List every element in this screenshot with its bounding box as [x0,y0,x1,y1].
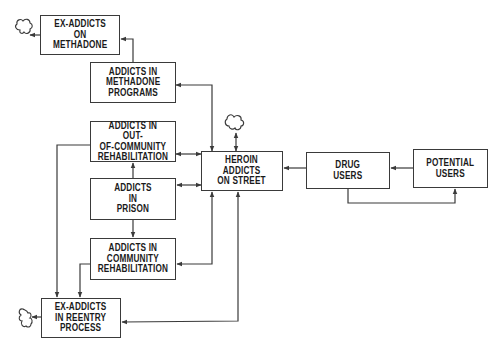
node-label: EX-ADDICTS ON METHADONE [53,19,107,51]
arrow-outrehab-to-reentry [57,145,90,297]
arrow-commrehab-heroin [177,192,212,264]
node-label: ADDICTS IN OUT- OF-COMMUNITY REHABILITAT… [98,121,168,163]
node-heroin-addicts-on-street: HEROIN ADDICTS ON STREET [201,151,283,191]
node-label: DRUG USERS [333,160,362,181]
node-addicts-in-methadone-programs: ADDICTS IN METHADONE PROGRAMS [90,62,176,103]
arrow-commrehab-to-reentry [80,264,90,297]
node-addicts-in-community-rehabilitation: ADDICTS IN COMMUNITY REHABILITATION [90,238,176,280]
node-label: ADDICTS IN PRISON [114,183,152,215]
node-addicts-in-prison: ADDICTS IN PRISON [90,178,176,220]
node-label: HEROIN ADDICTS ON STREET [218,155,266,187]
arrow-methadone-heroin [176,85,212,151]
node-potential-users: POTENTIAL USERS [413,149,488,188]
node-drug-users: DRUG USERS [306,152,390,189]
node-ex-addicts-in-reentry-process: EX-ADDICTS IN REENTRY PROCESS [41,298,121,338]
arrow-drug-to-potential [348,189,455,203]
cloud-icon [19,309,32,327]
node-label: EX-ADDICTS IN REENTRY PROCESS [55,302,107,334]
node-ex-addicts-on-methadone: EX-ADDICTS ON METHADONE [40,15,120,55]
node-label: POTENTIAL USERS [427,158,475,179]
node-label: ADDICTS IN METHADONE PROGRAMS [106,67,160,99]
arrow-methadone-to-ex [121,39,133,62]
cloud-icon [225,115,243,130]
cloud-icon [16,19,33,33]
node-addicts-in-out-of-community-rehabilitation: ADDICTS IN OUT- OF-COMMUNITY REHABILITAT… [90,121,176,162]
node-label: ADDICTS IN COMMUNITY REHABILITATION [98,243,168,275]
